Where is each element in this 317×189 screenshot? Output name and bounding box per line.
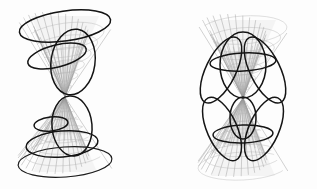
panel-left-non-degenerate-conics bbox=[0, 0, 317, 189]
conic-sections-figure bbox=[0, 0, 317, 189]
